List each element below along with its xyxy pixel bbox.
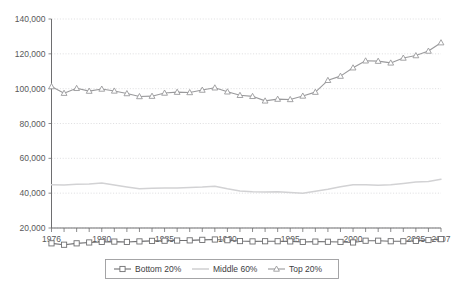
data-point-marker (288, 239, 293, 244)
data-point-marker (363, 238, 368, 243)
data-point-marker (175, 238, 180, 243)
data-point-marker (313, 239, 318, 244)
y-axis-tick-label: 40,000 (20, 188, 46, 198)
x-axis-group (52, 228, 442, 232)
data-point-marker (49, 241, 54, 246)
data-point-marker (124, 239, 129, 244)
data-point-marker (300, 239, 305, 244)
legend-item-top-20[interactable]: Top 20% (268, 264, 323, 274)
chart-canvas: 20,00040,00060,00080,000100,000120,00014… (0, 0, 455, 296)
data-point-marker (350, 65, 356, 70)
data-point-marker (212, 85, 218, 90)
data-point-marker (61, 242, 66, 247)
income-quintile-line-chart: 20,00040,00060,00080,000100,000120,00014… (0, 0, 455, 296)
data-point-marker (225, 238, 230, 243)
data-point-marker (325, 239, 330, 244)
data-point-marker (426, 237, 431, 242)
data-point-marker (200, 237, 205, 242)
y-axis-tick-label: 120,000 (15, 49, 46, 59)
data-point-marker (74, 241, 79, 246)
data-point-marker (137, 239, 142, 244)
data-point-marker (212, 237, 217, 242)
legend-item-middle-60[interactable]: Middle 60% (192, 264, 258, 274)
data-point-marker (187, 238, 192, 243)
series-middle-60 (52, 179, 442, 193)
y-axis-tick-label: 20,000 (20, 223, 46, 233)
data-point-marker (237, 238, 242, 243)
data-point-marker (149, 238, 154, 243)
series-line (52, 43, 442, 101)
series-line (52, 179, 442, 193)
data-point-marker (87, 240, 92, 245)
legend-item-label: Top 20% (289, 264, 323, 274)
data-point-marker (250, 239, 255, 244)
legend-item-label: Middle 60% (213, 264, 258, 274)
data-point-marker (338, 73, 344, 78)
y-tick-labels-group: 20,00040,00060,00080,000100,000120,00014… (15, 14, 46, 233)
data-point-marker (99, 239, 104, 244)
data-point-marker (162, 238, 167, 243)
data-point-marker (438, 237, 443, 242)
data-point-marker (49, 84, 55, 89)
legend-item-bottom-20[interactable]: Bottom 20% (114, 264, 182, 274)
legend-item-label: Bottom 20% (135, 264, 182, 274)
data-point-marker (438, 40, 444, 45)
data-point-marker (262, 239, 267, 244)
data-point-marker (376, 238, 381, 243)
series-markers (49, 40, 444, 103)
y-axis-tick-label: 140,000 (15, 14, 46, 24)
data-point-marker (338, 239, 343, 244)
series-top-20 (49, 40, 444, 103)
series-group (49, 40, 444, 248)
y-axis-tick-label: 100,000 (15, 84, 46, 94)
data-point-marker (401, 239, 406, 244)
data-point-marker (275, 239, 280, 244)
data-point-marker (120, 266, 125, 271)
data-point-marker (388, 239, 393, 244)
gridlines-group (52, 19, 442, 228)
y-axis-tick-label: 60,000 (20, 153, 46, 163)
data-point-marker (413, 238, 418, 243)
data-point-marker (426, 48, 432, 53)
chart-legend: Bottom 20%Middle 60%Top 20% (106, 260, 339, 279)
y-axis-tick-label: 80,000 (20, 119, 46, 129)
data-point-marker (74, 85, 80, 90)
data-point-marker (112, 239, 117, 244)
y-axis-group (49, 19, 52, 228)
data-point-marker (350, 240, 355, 245)
